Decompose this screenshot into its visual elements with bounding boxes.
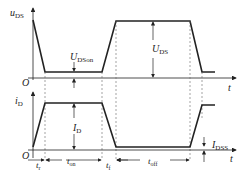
tr-label: tr bbox=[36, 160, 41, 171]
uds-amplitude-label: UDS bbox=[152, 43, 168, 56]
ton-label: ton bbox=[67, 156, 76, 167]
id-amplitude-label: ID bbox=[72, 122, 81, 135]
toff-label: toff bbox=[148, 156, 157, 167]
lower-origin-label: O bbox=[22, 150, 29, 161]
tf-label: tf bbox=[106, 160, 111, 171]
uds-waveform bbox=[33, 20, 215, 72]
uds-axis-label: uDS bbox=[10, 7, 24, 20]
lower-plot: iD O t ID IDSS bbox=[15, 92, 236, 164]
switching-waveform-diagram: uDS O t UDSon UDS iD O t ID IDSS bbox=[0, 0, 246, 189]
id-waveform bbox=[33, 103, 215, 147]
lower-time-label: t bbox=[230, 153, 233, 164]
upper-time-label: t bbox=[228, 82, 231, 93]
upper-origin-label: O bbox=[22, 77, 29, 88]
time-markers bbox=[45, 21, 202, 160]
udson-label: UDSon bbox=[70, 51, 94, 64]
id-axis-label: iD bbox=[15, 95, 23, 108]
